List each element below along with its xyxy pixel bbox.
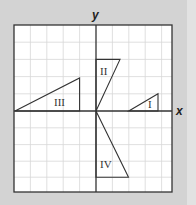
triangle-ii-label: II [100, 65, 108, 77]
coordinate-grid-diagram: I II III IV [0, 0, 196, 205]
triangle-iv-label: IV [100, 158, 112, 170]
triangle-iii-label: III [54, 96, 65, 108]
y-axis-label: y [92, 9, 99, 21]
triangle-i-label: I [148, 98, 152, 110]
x-axis-label: x [176, 105, 183, 117]
